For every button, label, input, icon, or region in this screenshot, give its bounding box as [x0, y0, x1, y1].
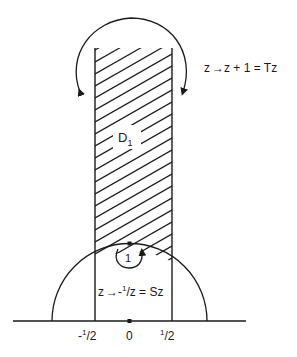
- point-i-label: 1: [125, 252, 131, 264]
- point-i: [128, 242, 132, 246]
- inversion-label: z→-1/z = Sz: [98, 284, 163, 299]
- translation-label: z→z + 1 = Tz: [204, 61, 277, 75]
- tick-pos-half: 1/2: [160, 328, 175, 343]
- origin-point: [128, 319, 132, 323]
- fundamental-domain-diagram: D1 z→z + 1 = Tz 1 z→-1/z = Sz -1/2 0 1/2: [0, 0, 297, 357]
- tick-zero: 0: [126, 329, 133, 343]
- tick-neg-half: -1/2: [78, 328, 97, 343]
